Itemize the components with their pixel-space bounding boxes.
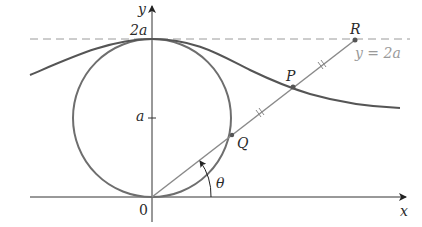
y-tick-label-2a: 2a [130,23,147,37]
ray-origin-to-R [152,40,355,197]
angle-theta-label: θ [216,176,224,190]
y-axis-label: y [138,2,146,16]
x-axis-label: x [400,204,408,218]
point-label-P: P [286,69,295,83]
point-label-Q: Q [237,136,248,150]
y-tick-label-a: a [136,109,144,123]
point-Q [230,133,234,137]
witch-of-agnesi-diagram: y x 0 2a a y = 2a R P Q θ [0,0,422,227]
dashed-line-label: y = 2a [355,46,401,60]
point-label-R: R [350,22,361,36]
point-R [353,38,358,43]
witch-curve [30,39,400,108]
origin-label: 0 [139,203,148,217]
point-P [291,85,296,90]
